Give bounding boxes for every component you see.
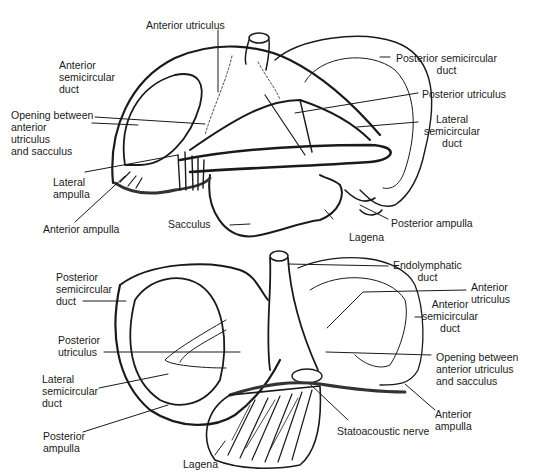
label-line: duct [424, 137, 480, 149]
label-lateral-semicircular-duct-top: Lateral semicircular duct [424, 113, 480, 149]
label-statoacoustic-nerve-bottom: Statoacoustic nerve [337, 425, 429, 437]
label-opening-bottom: Opening between anterior utriculus and s… [436, 351, 518, 387]
label-line: Opening between [436, 351, 518, 363]
label-line: Posterior [43, 430, 85, 442]
label-line: Anterior [422, 298, 478, 310]
label-anterior-ampulla-top: Anterior ampulla [43, 223, 119, 235]
label-line: semicircular [42, 385, 98, 397]
label-line: duct [42, 397, 98, 409]
label-line: duct [422, 322, 478, 334]
label-line: Endolymphatic [393, 259, 462, 271]
label-endolymphatic-duct-bottom: Endolymphatic duct [393, 259, 462, 283]
label-anterior-ampulla-bottom: Anterior ampulla [435, 408, 472, 432]
label-lateral-semicircular-duct-bottom: Lateral semicircular duct [42, 373, 98, 409]
labyrinth-figure: Anterior utriculus Anterior semicircular… [0, 0, 537, 474]
label-line: ampulla [53, 188, 90, 200]
label-line: semicircular [424, 125, 480, 137]
label-opening-top: Opening between anterior utriculus and s… [11, 109, 93, 157]
label-line: duct [59, 83, 115, 95]
label-line: ampulla [435, 420, 472, 432]
label-line: and sacculus [11, 145, 93, 157]
label-lateral-ampulla-top: Lateral ampulla [53, 176, 90, 200]
label-posterior-utriculus-bottom: Posterior utriculus [58, 334, 100, 358]
label-line: Posterior [58, 334, 100, 346]
label-anterior-utriculus-top: Anterior utriculus [146, 19, 225, 31]
label-line: Lateral [53, 176, 90, 188]
label-posterior-semicircular-duct-top: Posterior semicircular duct [396, 52, 497, 76]
label-anterior-semicircular-duct-top: Anterior semicircular duct [59, 59, 115, 95]
label-posterior-ampulla-bottom: Posterior ampulla [43, 430, 85, 454]
label-line: Anterior [435, 408, 472, 420]
label-line: anterior [11, 121, 93, 133]
label-sacculus-top: Sacculus [168, 218, 211, 230]
label-line: utriculus [58, 346, 100, 358]
label-line: Opening between [11, 109, 93, 121]
label-posterior-ampulla-top: Posterior ampulla [391, 217, 473, 229]
label-line: ampulla [43, 442, 85, 454]
label-line: and sacculus [436, 375, 518, 387]
label-line: semicircular [59, 71, 115, 83]
label-line: Lateral [42, 373, 98, 385]
label-line: duct [56, 295, 112, 307]
label-anterior-semicircular-duct-bottom: Anterior semicircular duct [422, 298, 478, 334]
label-lagena-bottom: Lagena [183, 458, 218, 470]
label-line: anterior utriculus [436, 363, 518, 375]
label-line: Anterior [471, 281, 510, 293]
label-posterior-utriculus-top: Posterior utriculus [422, 88, 506, 100]
label-lagena-top: Lagena [349, 231, 384, 243]
label-line: Posterior semicircular [396, 52, 497, 64]
label-line: utriculus [11, 133, 93, 145]
label-line: Anterior [59, 59, 115, 71]
label-line: Posterior [56, 271, 112, 283]
label-line: duct [393, 271, 462, 283]
label-line: Lateral [424, 113, 480, 125]
label-line: duct [396, 64, 497, 76]
label-posterior-semicircular-duct-bottom: Posterior semicircular duct [56, 271, 112, 307]
label-line: semicircular [56, 283, 112, 295]
label-line: semicircular [422, 310, 478, 322]
